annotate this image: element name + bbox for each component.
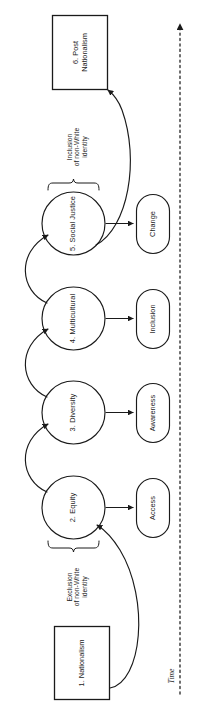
stage-5-circle — [42, 192, 105, 255]
brace-inclusion-shape — [48, 179, 99, 190]
stage-2-circle — [42, 476, 105, 539]
stage-3-circle — [42, 381, 105, 444]
arrow-stage3-to-stage4 — [25, 329, 48, 397]
stage-1-rect — [55, 627, 110, 700]
stage-4-circle — [42, 287, 105, 350]
diagram-svg — [0, 0, 203, 707]
outcome-awareness-pill — [137, 384, 170, 443]
brace-exclusion-shape — [48, 541, 99, 552]
outcome-change-pill — [137, 195, 170, 254]
outcome-inclusion-pill — [137, 290, 170, 349]
diagram-canvas: 6. Post Nationalism Inclusion of non-Whi… — [0, 0, 203, 707]
arrow-stage2-to-stage3 — [25, 424, 48, 492]
arrow-stage4-to-stage5 — [25, 235, 48, 303]
stage-6-rect — [53, 16, 108, 90]
outcome-access-pill — [137, 479, 170, 538]
